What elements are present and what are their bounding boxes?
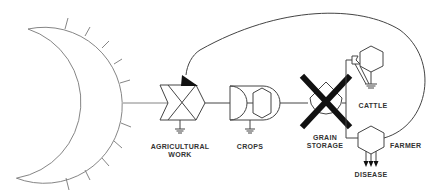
label-cattle: CATTLE bbox=[359, 102, 388, 109]
label-disease: DISEASE bbox=[355, 171, 388, 178]
label-crops: CROPS bbox=[237, 143, 263, 150]
energy-flow-diagram: AGRICULTURAL WORK CROPS GRAIN STORAGE CA… bbox=[0, 0, 435, 193]
crops-symbol bbox=[230, 86, 280, 133]
energy-ticks bbox=[65, 18, 131, 190]
agricultural-work-symbol bbox=[160, 75, 205, 133]
label-grain-storage-2: STORAGE bbox=[307, 142, 344, 149]
grain-storage-symbol bbox=[304, 78, 348, 125]
label-agricultural-work-2: WORK bbox=[168, 151, 191, 158]
farmer-symbol bbox=[358, 126, 384, 167]
disease-arrows-icon bbox=[364, 151, 379, 167]
label-grain-storage-1: GRAIN bbox=[313, 134, 337, 141]
label-farmer: FARMER bbox=[390, 142, 421, 149]
feedback-arrowhead-icon bbox=[181, 75, 198, 86]
label-agricultural-work-1: AGRICULTURAL bbox=[151, 143, 210, 150]
cattle-symbol bbox=[352, 46, 383, 88]
energy-source-circle bbox=[16, 18, 131, 190]
